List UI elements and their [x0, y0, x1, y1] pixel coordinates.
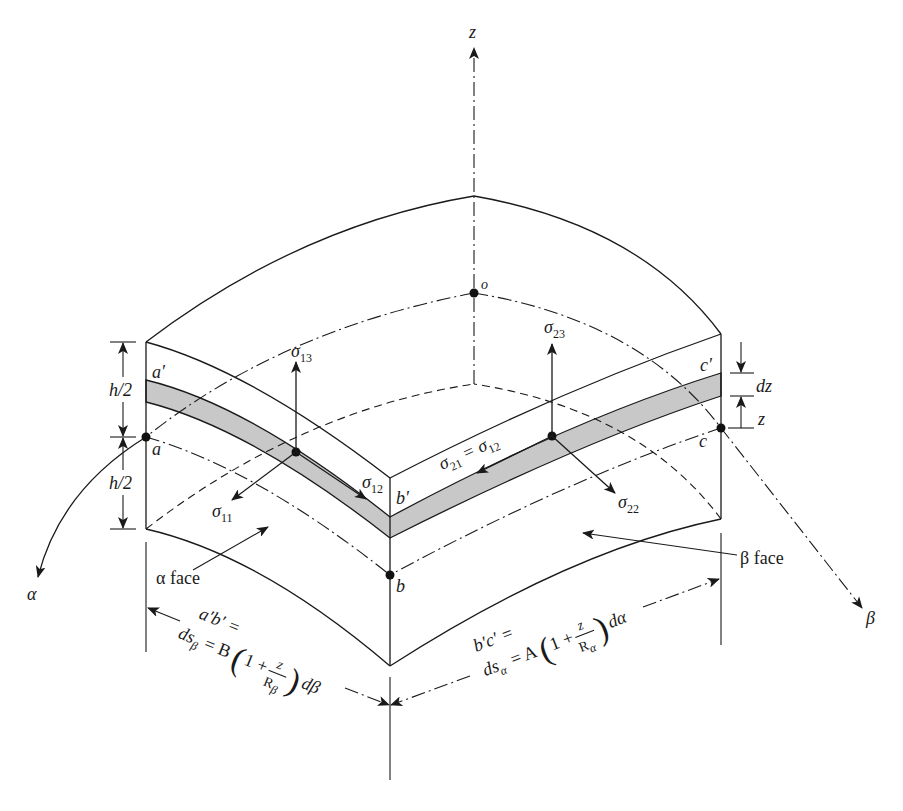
- beta-face-label: β face: [740, 548, 784, 568]
- z-axis-label: z: [468, 22, 476, 42]
- left-arc-dim-arrow-outer: [148, 608, 180, 621]
- point-a-label: a: [152, 439, 161, 459]
- alpha-face-label: α face: [156, 568, 200, 588]
- layer-position-dimension: dz z: [728, 342, 772, 429]
- point-c: [717, 424, 726, 433]
- sigma11-label: σ11: [212, 501, 232, 525]
- svg-text:dα: dα: [605, 607, 630, 632]
- alpha-face-pointer: [193, 527, 268, 570]
- z-offset-label: z: [757, 409, 765, 429]
- svg-text:= A: = A: [508, 641, 540, 669]
- right-arc-dim-arrow-inner: [391, 676, 470, 705]
- h-half-bottom-label: h/2: [109, 473, 132, 493]
- sigma23-label: σ23: [544, 317, 565, 341]
- point-a-prime-label: a′: [152, 362, 166, 382]
- point-b: [386, 571, 395, 580]
- svg-text:Rα: Rα: [577, 635, 599, 659]
- beta-axis-label: β: [865, 608, 875, 628]
- svg-text:z: z: [574, 617, 586, 634]
- svg-text:= B: = B: [202, 633, 234, 662]
- svg-text:dsα: dsα: [480, 653, 510, 684]
- point-o-label: o: [481, 277, 488, 292]
- point-o: [470, 289, 479, 298]
- top-back-right-edge: [474, 196, 721, 334]
- svg-text:dβ: dβ: [299, 673, 323, 698]
- svg-text:z: z: [274, 656, 286, 673]
- point-b-prime-label: b′: [396, 488, 410, 508]
- alpha-axis-label: α: [27, 584, 37, 604]
- svg-text:a′b′ =: a′b′ =: [197, 603, 244, 637]
- point-a: [142, 433, 151, 442]
- dz-label: dz: [756, 376, 772, 396]
- right-arc-dim-arrow-outer: [643, 579, 719, 607]
- left-arc-dim-arrow-inner: [345, 688, 389, 705]
- sigma22-label: σ22: [618, 492, 639, 516]
- beta-face-pointer: [583, 533, 737, 555]
- shell-element-diagram: z α β o a′ a b′ b c′ c h/2 h/2 dz z: [0, 0, 903, 811]
- point-b-label: b: [396, 576, 405, 596]
- top-back-left-edge: [146, 196, 474, 342]
- point-c-prime-label: c′: [700, 355, 713, 375]
- point-c-label: c: [699, 431, 707, 451]
- thickness-dimension: h/2 h/2: [109, 342, 136, 529]
- sigma12-label: σ12: [362, 472, 383, 496]
- h-half-top-label: h/2: [109, 380, 132, 400]
- bottom-front-left-edge: [146, 529, 390, 666]
- alpha-axis-curve: [38, 437, 146, 577]
- arc-length-formula-beta: a′b′ = dsβ = B ( 1 + z Rβ ) dβ: [170, 599, 333, 712]
- arc-length-formula-alpha: b′c′ = dsα = A ( 1 + z Rα ) dα: [470, 582, 635, 694]
- svg-text:dsβ: dsβ: [174, 623, 203, 653]
- svg-text:Rβ: Rβ: [260, 674, 281, 697]
